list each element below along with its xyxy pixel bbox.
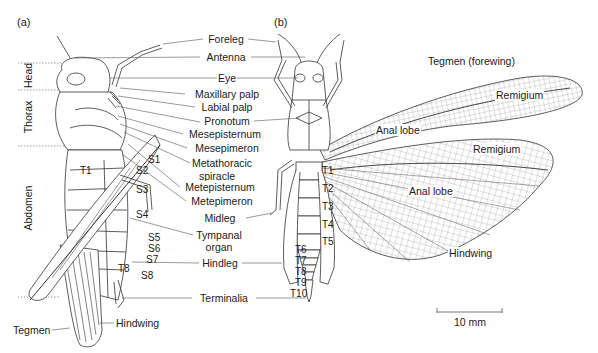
label-s7: S7 xyxy=(145,254,159,266)
label-s3: S3 xyxy=(135,184,149,196)
label-s8: S8 xyxy=(140,270,154,282)
scale-bar-line xyxy=(437,308,502,313)
grasshopper-anatomy-figure: (a) (b) Head Thorax Abdomen Foreleg Ante… xyxy=(0,0,598,353)
label-t3-dorsal: T3 xyxy=(321,201,335,213)
label-s2: S2 xyxy=(135,165,149,177)
label-t2-dorsal: T2 xyxy=(321,183,335,195)
label-metepimeron: Metepimeron xyxy=(190,195,253,207)
label-hindwing-dorsal: Hindwing xyxy=(448,247,493,259)
label-t8-lateral: T8 xyxy=(117,263,131,275)
label-anal-lobe-forewing: Anal lobe xyxy=(375,124,421,136)
panel-b-label: (b) xyxy=(274,16,287,28)
region-head-label: Head xyxy=(22,64,34,88)
label-midleg: Midleg xyxy=(204,212,237,224)
label-tegmen-forewing: Tegmen (forewing) xyxy=(427,55,516,67)
label-t10-dorsal: T10 xyxy=(289,288,308,300)
label-t5-dorsal: T5 xyxy=(321,236,335,248)
label-s4: S4 xyxy=(135,209,149,221)
label-t1-dorsal: T1 xyxy=(321,165,335,177)
scale-bar-label: 10 mm xyxy=(453,316,487,328)
label-organ: organ xyxy=(205,241,234,253)
label-mesepisternum: Mesepisternum xyxy=(188,128,262,140)
label-foreleg: Foreleg xyxy=(207,33,245,45)
label-mesepimeron: Mesepimeron xyxy=(194,142,260,154)
region-thorax-label: Thorax xyxy=(22,97,34,137)
dorsal-grasshopper xyxy=(270,34,582,302)
panel-a-label: (a) xyxy=(17,16,30,28)
label-tympanal: Tympanal xyxy=(195,229,243,241)
label-maxillary-palp: Maxillary palp xyxy=(194,88,260,100)
label-antenna: Antenna xyxy=(205,51,246,63)
label-remigium-hindwing: Remigium xyxy=(472,143,521,155)
label-eye: Eye xyxy=(217,72,237,84)
label-remigium-forewing: Remigium xyxy=(495,89,544,101)
label-anal-lobe-hindwing: Anal lobe xyxy=(408,185,454,197)
label-terminalia: Terminalia xyxy=(199,292,249,304)
label-hindleg: Hindleg xyxy=(201,257,239,269)
label-t1-lateral: T1 xyxy=(79,165,93,177)
label-t4-dorsal: T4 xyxy=(321,219,335,231)
region-abdomen-label: Abdomen xyxy=(22,181,34,235)
label-metepisternum: Metepisternum xyxy=(184,181,255,193)
label-metathoracic: Metathoracic xyxy=(191,157,253,169)
label-hindwing-lateral: Hindwing xyxy=(115,317,160,329)
label-labial-palp: Labial palp xyxy=(201,101,254,113)
label-tegmen: Tegmen xyxy=(12,324,51,336)
label-pronotum: Pronotum xyxy=(203,115,251,127)
